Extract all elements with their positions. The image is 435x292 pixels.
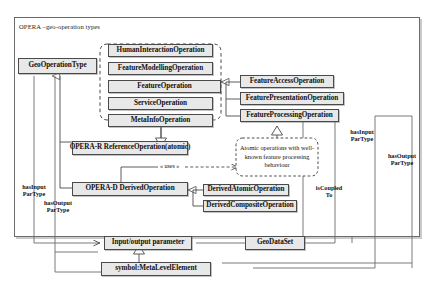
node-opera-r-reference-operation[interactable]: OPERA-R ReferenceOperation(atomic) bbox=[72, 141, 188, 155]
node-input-output-parameter[interactable]: Input/output parameter bbox=[104, 236, 192, 250]
edge-label-text: hasInput ParType bbox=[350, 128, 374, 142]
node-label: OPERA-D DerivedOperation bbox=[85, 185, 174, 192]
node-label: FeatureProcessingOperation bbox=[246, 112, 333, 119]
node-opera-d-derived-operation[interactable]: OPERA-D DerivedOperation bbox=[72, 182, 188, 196]
edge-label-left-has-output: hasOutput ParType bbox=[34, 199, 82, 214]
node-label: GeoDataSet bbox=[257, 239, 293, 246]
edge-label-text: hasOutput ParType bbox=[44, 199, 72, 213]
node-label: DerivedCompositeOperation bbox=[206, 202, 293, 209]
edge-label-text: isCoupled To bbox=[316, 184, 342, 198]
node-derived-composite-operation[interactable]: DerivedCompositeOperation bbox=[203, 200, 297, 212]
edge-label-right-has-output: hasOutput ParType bbox=[378, 152, 426, 167]
node-label: ServiceOperation bbox=[134, 100, 187, 107]
node-geo-data-set[interactable]: GeoDataSet bbox=[245, 236, 305, 250]
node-label: symbol:MetaLevelElement bbox=[115, 265, 197, 272]
node-label: FeatureAccessOperation bbox=[250, 78, 325, 85]
node-label: OPERA-R ReferenceOperation(atomic) bbox=[70, 144, 191, 151]
node-label: FeaturePresentationOperation bbox=[246, 95, 339, 102]
node-feature-operation[interactable]: FeatureOperation bbox=[108, 80, 221, 93]
package-frame-title: OPERA –geo-operation types bbox=[19, 23, 100, 30]
node-label: FeatureModellingOperation bbox=[118, 65, 203, 72]
node-meta-info-operation[interactable]: MetaInfoOperation bbox=[108, 114, 213, 127]
node-label: DerivedAtomicOperation bbox=[207, 186, 284, 193]
node-label: HumanInteractionOperation bbox=[117, 47, 205, 54]
node-label: GeoOperationType bbox=[28, 62, 86, 69]
edge-label-left-has-input: hasInput ParType bbox=[12, 183, 56, 198]
node-service-operation[interactable]: ServiceOperation bbox=[108, 97, 213, 110]
node-feature-access-operation[interactable]: FeatureAccessOperation bbox=[240, 75, 334, 88]
node-geo-operation-type[interactable]: GeoOperationType bbox=[18, 58, 97, 74]
node-feature-presentation-operation[interactable]: FeaturePresentationOperation bbox=[240, 92, 344, 105]
edge-label-right-has-input: hasInput ParType bbox=[340, 128, 384, 143]
note-atomic-operations: Atomic operations with well-known featur… bbox=[236, 138, 318, 176]
node-symbol-meta-level-element[interactable]: symbol:MetaLevelElement bbox=[101, 262, 211, 276]
uml-class-diagram: OPERA –geo-operation types bbox=[0, 0, 435, 292]
node-label: MetaInfoOperation bbox=[131, 117, 190, 124]
node-label: FeatureOperation bbox=[137, 83, 192, 90]
edge-label-text: hasOutput ParType bbox=[388, 152, 416, 166]
node-feature-processing-operation[interactable]: FeatureProcessingOperation bbox=[240, 109, 339, 122]
note-text: Atomic operations with well-known featur… bbox=[240, 144, 314, 170]
edge-label-uses: « uses » bbox=[159, 163, 180, 169]
node-label: Input/output parameter bbox=[112, 239, 185, 246]
node-derived-atomic-operation[interactable]: DerivedAtomicOperation bbox=[203, 184, 289, 196]
edge-label-text: hasInput ParType bbox=[22, 183, 46, 197]
edge-label-is-coupled-to: isCoupled To bbox=[307, 184, 351, 199]
node-feature-modelling-operation[interactable]: FeatureModellingOperation bbox=[108, 62, 213, 75]
node-human-interaction-operation[interactable]: HumanInteractionOperation bbox=[108, 44, 213, 57]
